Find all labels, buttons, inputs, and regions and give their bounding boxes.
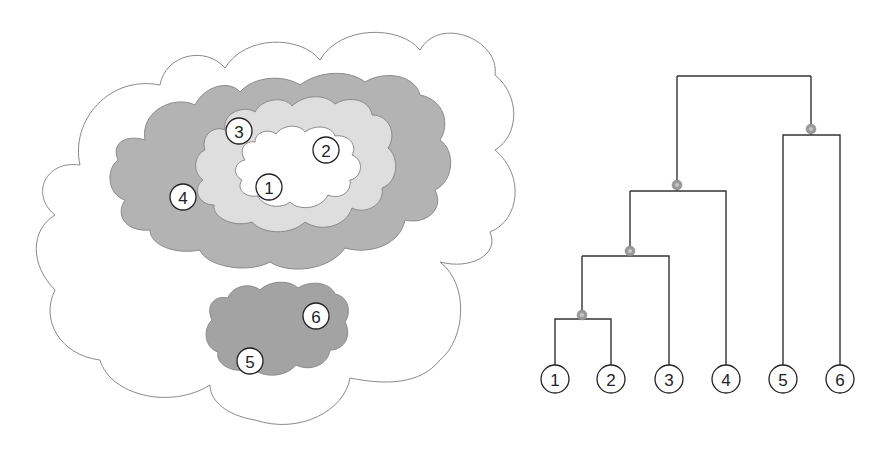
merge-1-2 — [555, 319, 611, 365]
svg-text:2: 2 — [606, 371, 615, 390]
leaf-6: 6 — [826, 365, 854, 393]
svg-text:2: 2 — [321, 142, 330, 161]
dendrogram-leaves: 1 2 3 4 5 6 — [541, 365, 854, 393]
cluster-label-5: 5 — [237, 348, 263, 374]
merge-node-1234 — [672, 180, 682, 190]
svg-text:3: 3 — [664, 371, 673, 390]
merge-node-56 — [806, 124, 816, 134]
cluster-label-3: 3 — [226, 118, 252, 144]
svg-text:4: 4 — [178, 189, 187, 208]
merge-node-123 — [625, 246, 635, 256]
merge-5-6 — [783, 135, 840, 365]
cluster-label-1: 1 — [256, 174, 282, 200]
svg-text:1: 1 — [264, 179, 273, 198]
merge-node-12 — [577, 310, 587, 320]
leaf-3: 3 — [655, 365, 683, 393]
merge-123-4 — [630, 191, 726, 365]
leaf-1: 1 — [541, 365, 569, 393]
svg-text:1: 1 — [550, 371, 559, 390]
svg-text:4: 4 — [721, 371, 730, 390]
leaf-4: 4 — [712, 365, 740, 393]
dendrogram — [555, 76, 840, 365]
svg-text:5: 5 — [245, 353, 254, 372]
cluster-label-4: 4 — [170, 184, 196, 210]
merge-12-3 — [582, 256, 669, 365]
leaf-5: 5 — [769, 365, 797, 393]
svg-text:6: 6 — [311, 308, 320, 327]
cluster-label-2: 2 — [313, 137, 339, 163]
figure-canvas: 1 2 3 4 5 6 — [0, 0, 883, 449]
cluster-label-6: 6 — [303, 303, 329, 329]
svg-text:6: 6 — [835, 371, 844, 390]
merge-nodes — [577, 124, 816, 320]
svg-text:5: 5 — [778, 371, 787, 390]
leaf-2: 2 — [597, 365, 625, 393]
svg-text:3: 3 — [234, 123, 243, 142]
